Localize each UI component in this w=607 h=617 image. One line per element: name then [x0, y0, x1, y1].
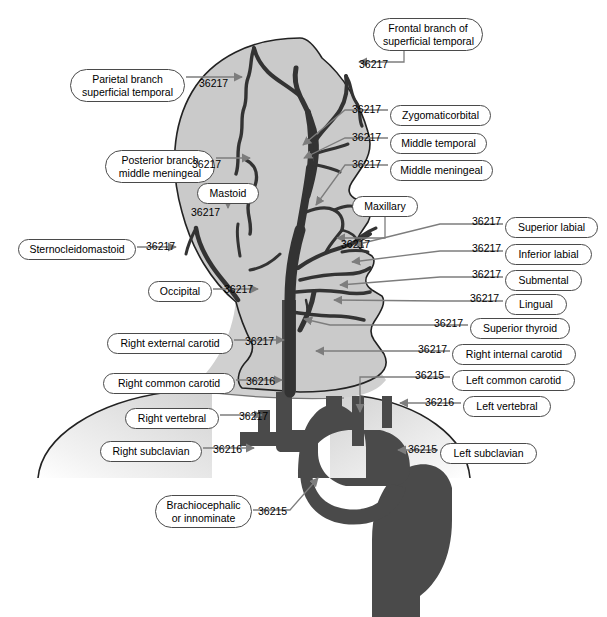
label-lingual[interactable]: Lingual	[505, 294, 567, 315]
label-sternocleidomastoid[interactable]: Sternocleidomastoid	[18, 239, 136, 260]
label-right-vertebral[interactable]: Right vertebral	[125, 408, 219, 429]
code-right-common-carotid: 36216	[246, 375, 275, 387]
label-left-common-carotid[interactable]: Left common carotid	[452, 370, 575, 391]
code-inferior-labial: 36217	[472, 242, 501, 254]
code-middle-temporal: 36217	[352, 131, 381, 143]
label-parietal-branch-superficial-temporal[interactable]: Parietal branch superficial temporal	[70, 69, 185, 102]
label-right-external-carotid[interactable]: Right external carotid	[107, 333, 233, 354]
label-frontal-branch-superficial-temporal[interactable]: Frontal branch of superficial temporal	[373, 18, 483, 51]
code-zygomaticorbital: 36217	[352, 103, 381, 115]
code-frontal-branch-superficial-temporal: 36217	[359, 58, 388, 70]
label-submental[interactable]: Submental	[505, 270, 582, 291]
label-middle-temporal[interactable]: Middle temporal	[390, 133, 487, 154]
label-inferior-labial[interactable]: Inferior labial	[505, 244, 592, 265]
code-superior-labial: 36217	[472, 215, 501, 227]
label-zygomaticorbital[interactable]: Zygomaticorbital	[390, 105, 491, 126]
code-parietal-branch-superficial-temporal: 36217	[199, 77, 228, 89]
label-mastoid[interactable]: Mastoid	[197, 183, 259, 204]
code-right-external-carotid: 36217	[245, 335, 274, 347]
code-right-subclavian: 36216	[213, 443, 242, 455]
code-posterior-branch-middle-meningeal: 36217	[192, 158, 221, 170]
code-mastoid: 36217	[191, 206, 220, 218]
anatomy-diagram: Frontal branch of superficial temporal36…	[0, 0, 607, 617]
label-right-common-carotid[interactable]: Right common carotid	[103, 373, 235, 394]
label-left-vertebral[interactable]: Left vertebral	[463, 396, 551, 417]
code-maxillary: 36217	[341, 238, 370, 250]
label-left-subclavian[interactable]: Left subclavian	[440, 443, 537, 464]
code-submental: 36217	[472, 268, 501, 280]
code-middle-meningeal: 36217	[352, 158, 381, 170]
code-occipital: 36217	[224, 283, 253, 295]
label-superior-thyroid[interactable]: Superior thyroid	[470, 318, 570, 339]
label-maxillary[interactable]: Maxillary	[352, 196, 418, 217]
label-middle-meningeal[interactable]: Middle meningeal	[390, 160, 493, 181]
label-occipital[interactable]: Occipital	[148, 281, 212, 302]
code-lingual: 36217	[470, 292, 499, 304]
label-right-internal-carotid[interactable]: Right internal carotid	[452, 344, 576, 365]
label-right-subclavian[interactable]: Right subclavian	[100, 441, 202, 462]
code-left-subclavian: 36215	[408, 443, 437, 455]
code-left-common-carotid: 36215	[415, 369, 444, 381]
label-brachiocephalic-or-innominate[interactable]: Brachiocephalic or innominate	[155, 495, 252, 528]
code-right-vertebral: 36217	[239, 410, 268, 422]
code-superior-thyroid: 36217	[434, 317, 463, 329]
code-brachiocephalic-or-innominate: 36215	[258, 505, 287, 517]
label-superior-labial[interactable]: Superior labial	[505, 217, 598, 238]
code-left-vertebral: 36216	[425, 396, 454, 408]
code-right-internal-carotid: 36217	[418, 343, 447, 355]
code-sternocleidomastoid: 36217	[146, 240, 175, 252]
